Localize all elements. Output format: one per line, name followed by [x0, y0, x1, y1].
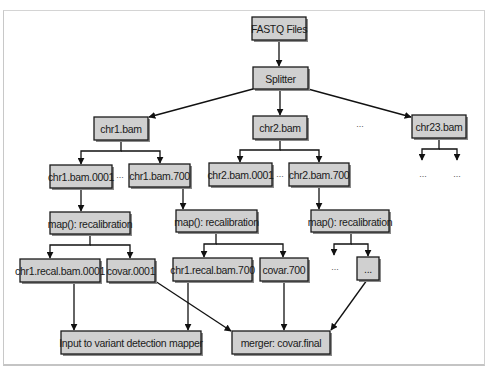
edge-map1-to-recal1_0001 [50, 234, 90, 258]
edge-map2-to-covar_700 [216, 244, 283, 257]
node-chr1_0001: chr1.bam.0001 [48, 165, 115, 190]
node-label: chr2.bam [259, 122, 301, 134]
edge-chr1-to-chr1_0001 [81, 140, 121, 164]
node-label: map(): recalibration [48, 218, 133, 230]
edge-covar_0001-to-merger [155, 281, 231, 331]
node-label: ... [364, 263, 372, 275]
edge-chr2-to-chr2_0001 [240, 139, 280, 162]
node-label: Input to variant detection mapper [59, 337, 203, 349]
node-label: covar.0001 [107, 265, 156, 277]
node-label: chr1.recal.bam.700 [170, 264, 255, 276]
ellipsis-layer: .................. [116, 119, 461, 272]
edge-chr1-to-chr1_700 [121, 151, 160, 163]
node-input_mapper: Input to variant detection mapper [59, 331, 203, 356]
node-merger: merger: covar.final [232, 331, 332, 356]
edge-dots_box-to-merger [331, 280, 367, 330]
node-dots_box: ... [357, 257, 381, 282]
edge-map1-to-covar_0001 [90, 245, 130, 258]
node-chr1_700: chr1.bam.700 [129, 164, 192, 189]
node-label: map(): recalibration [174, 216, 259, 228]
node-label: chr23.bam [416, 121, 463, 133]
node-chr23: chr23.bam [412, 115, 468, 140]
node-label: FASTQ Files [251, 23, 307, 35]
edge-splitter-to-chr23 [308, 89, 411, 117]
edge-map3-to-dots_box [351, 244, 368, 256]
ellipsis-marker: ... [356, 119, 364, 129]
ellipsis-marker: ... [419, 169, 427, 179]
edge-map2-to-recal1_700 [204, 232, 216, 257]
node-label: chr1.bam.0001 [48, 171, 115, 183]
node-label: chr1.bam [100, 123, 142, 135]
edge-chr23-to-dots_a [422, 138, 439, 160]
edge-splitter-to-chr1 [149, 89, 253, 117]
node-chr2_0001: chr2.bam.0001 [207, 163, 274, 188]
node-chr2_700: chr2.bam.700 [289, 163, 351, 188]
edge-map3-to-dots_c [334, 232, 351, 255]
edge-chr2-to-chr2_700 [280, 150, 319, 162]
node-label: chr1.bam.700 [129, 170, 190, 182]
node-map2: map(): recalibration [174, 210, 259, 234]
ellipsis-marker: ... [116, 170, 124, 180]
node-label: covar.700 [263, 264, 306, 276]
node-map1: map(): recalibration [48, 212, 133, 236]
edge-chr23-to-dots_b [439, 149, 457, 160]
node-label: chr1.recal.bam.0001 [15, 265, 105, 277]
nodes-layer: FASTQ FilesSplitterchr1.bamchr2.bamchr23… [15, 17, 468, 356]
node-label: map(): recalibration [308, 216, 393, 228]
node-label: chr2.bam.0001 [207, 169, 274, 181]
node-label: Splitter [265, 73, 296, 85]
ellipsis-marker: ... [331, 262, 339, 272]
node-label: merger: covar.final [241, 337, 322, 349]
node-recal1_0001: chr1.recal.bam.0001 [15, 259, 105, 284]
node-recal1_700: chr1.recal.bam.700 [170, 258, 255, 283]
flowchart-diagram: FASTQ FilesSplitterchr1.bamchr2.bamchr23… [0, 0, 492, 375]
node-fastq: FASTQ Files [251, 17, 308, 42]
ellipsis-marker: ... [276, 169, 284, 179]
node-covar_700: covar.700 [260, 258, 310, 283]
node-splitter: Splitter [253, 67, 310, 91]
node-covar_0001: covar.0001 [107, 259, 157, 284]
ellipsis-marker: ... [453, 169, 461, 179]
node-chr1: chr1.bam [94, 117, 150, 142]
node-label: chr2.bam.700 [289, 169, 350, 181]
node-chr2: chr2.bam [253, 116, 309, 141]
node-map3: map(): recalibration [308, 210, 393, 234]
